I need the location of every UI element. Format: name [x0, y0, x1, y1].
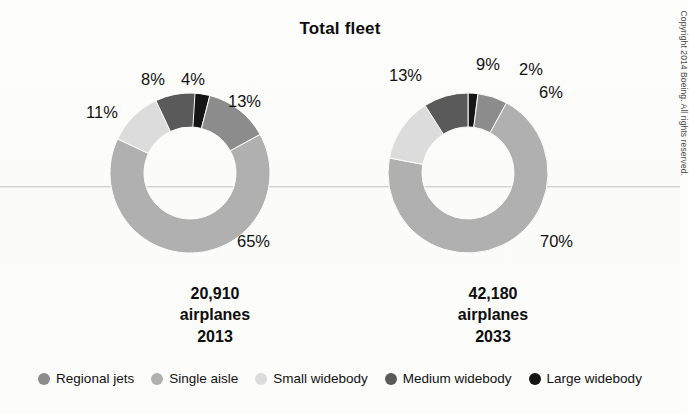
donut-chart-2033: [383, 88, 553, 258]
scan-artifact-line-secondary: [0, 187, 680, 188]
caption-2013-unit: airplanes: [85, 304, 345, 325]
label-2033-single-aisle: 70%: [540, 232, 573, 251]
caption-2033-count: 42,180: [363, 283, 623, 304]
legend-item: Medium widebody: [385, 371, 512, 386]
label-2033-small-widebody: 13%: [389, 66, 422, 85]
caption-2033-year: 2033: [363, 326, 623, 347]
legend-item: Small widebody: [255, 371, 368, 386]
caption-2033-unit: airplanes: [363, 304, 623, 325]
legend-item-label: Regional jets: [56, 371, 134, 386]
label-2013-regional-jets: 13%: [228, 92, 261, 111]
legend-item: Single aisle: [151, 371, 238, 386]
caption-2013-year: 2013: [85, 326, 345, 347]
legend-item-label: Medium widebody: [403, 371, 512, 386]
legend-swatch-icon: [38, 373, 50, 385]
caption-2013: 20,910 airplanes 2013: [85, 283, 345, 347]
donut-svg-2033: [383, 88, 553, 258]
label-2013-small-widebody: 11%: [86, 103, 118, 122]
legend-item: Regional jets: [38, 371, 134, 386]
label-2033-regional-jets: 6%: [539, 83, 563, 102]
label-2013-single-aisle: 65%: [237, 232, 270, 251]
legend-swatch-icon: [529, 373, 541, 385]
legend-item-label: Single aisle: [169, 371, 238, 386]
label-2013-medium-widebody: 8%: [141, 70, 165, 89]
legend-swatch-icon: [151, 373, 163, 385]
page-title: Total fleet: [0, 19, 680, 39]
label-2013-large-widebody: 4%: [181, 70, 205, 89]
legend-item-label: Small widebody: [273, 371, 368, 386]
label-2033-large-widebody: 2%: [519, 60, 543, 79]
caption-2033: 42,180 airplanes 2033: [363, 283, 623, 347]
caption-2013-count: 20,910: [85, 283, 345, 304]
label-2033-medium-widebody: 9%: [476, 55, 500, 74]
legend-item: Large widebody: [529, 371, 642, 386]
legend-swatch-icon: [255, 373, 267, 385]
legend-swatch-icon: [385, 373, 397, 385]
copyright-notice: Copyright 2014 Boeing. All rights reserv…: [679, 11, 689, 176]
chart-legend: Regional jetsSingle aisleSmall widebodyM…: [0, 371, 680, 386]
legend-item-label: Large widebody: [547, 371, 642, 386]
